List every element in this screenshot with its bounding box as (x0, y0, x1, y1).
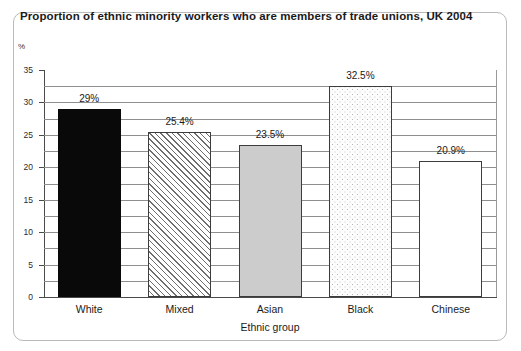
plot-right-edge (496, 70, 497, 298)
bar-value-label: 29% (49, 93, 129, 104)
x-axis-label-chinese: Chinese (406, 303, 496, 315)
x-axis-label-asian: Asian (225, 303, 315, 315)
bar-value-label: 23.5% (230, 129, 310, 140)
bar-value-label: 25.4% (140, 116, 220, 127)
x-axis-label-mixed: Mixed (135, 303, 225, 315)
x-axis-label-white: White (44, 303, 134, 315)
bar-value-label: 32.5% (320, 70, 400, 81)
y-axis-tick-mark (39, 167, 44, 168)
y-axis-tick-label: 30 (13, 97, 33, 107)
y-axis-tick-label: 35 (13, 65, 33, 75)
y-axis-tick-label: 15 (13, 195, 33, 205)
y-axis-tick-label: 10 (13, 227, 33, 237)
x-axis-title: Ethnic group (44, 321, 496, 333)
chart-title: Proportion of ethnic minority workers wh… (20, 10, 473, 22)
y-axis-tick-mark (39, 297, 44, 298)
y-axis-tick-mark (39, 232, 44, 233)
bar-mixed[interactable] (148, 132, 211, 297)
y-axis-tick-label: 0 (13, 292, 33, 302)
y-axis-tick-mark (39, 135, 44, 136)
bar-value-label: 20.9% (411, 145, 491, 156)
bar-white[interactable] (58, 109, 121, 297)
y-axis-tick-mark (39, 200, 44, 201)
y-axis-unit-label: % (18, 42, 25, 51)
x-axis-line (44, 297, 497, 298)
bar-chinese[interactable] (419, 161, 482, 297)
plot-area: 29%25.4%23.5%32.5%20.9% (44, 70, 496, 297)
bar-asian[interactable] (239, 145, 302, 297)
bar-black[interactable] (329, 86, 392, 297)
y-axis-tick-mark (39, 265, 44, 266)
y-axis-tick-label: 25 (13, 130, 33, 140)
y-axis-tick-mark (39, 102, 44, 103)
gridline (44, 86, 496, 87)
y-axis-tick-label: 20 (13, 162, 33, 172)
x-axis-label-black: Black (315, 303, 405, 315)
y-axis-tick-mark (39, 70, 44, 71)
y-axis-tick-label: 5 (13, 260, 33, 270)
